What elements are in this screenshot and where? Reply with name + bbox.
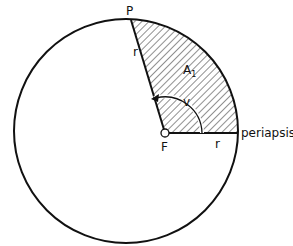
- label-p: P: [126, 4, 133, 18]
- focus-point: [161, 129, 169, 137]
- label-radius-upper: r: [133, 45, 138, 59]
- label-focus: F: [161, 140, 168, 154]
- label-periapsis: periapsis: [241, 126, 293, 140]
- orbit-diagram: P r A1 v F r periapsis: [0, 0, 293, 246]
- label-radius-lower: r: [215, 137, 220, 151]
- label-angle-v: v: [183, 95, 190, 109]
